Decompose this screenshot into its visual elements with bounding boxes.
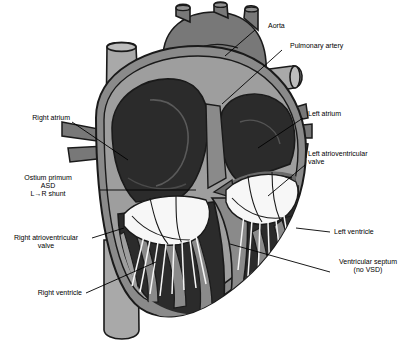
- label-ostium-primum-line3: L→R shunt: [2, 190, 94, 198]
- label-right-atrium: Right atrium: [0, 114, 70, 122]
- label-left-av-valve-line2: valve: [308, 158, 324, 166]
- label-left-atrium: Left atrium: [308, 110, 341, 118]
- label-pulmonary-artery: Pulmonary artery: [290, 42, 343, 50]
- label-right-ventricle: Right ventricle: [0, 289, 82, 297]
- heart-anatomy-figure: Aorta Pulmonary artery Right atrium Left…: [0, 0, 411, 355]
- label-right-av-valve-line2: valve: [0, 242, 92, 250]
- leader-left-ventricle: [296, 228, 330, 232]
- right-atrium-chamber: [112, 79, 208, 202]
- label-aorta: Aorta: [268, 22, 285, 30]
- label-left-ventricle: Left ventricle: [334, 228, 374, 236]
- label-ventricular-septum-line2: (no VSD): [325, 266, 411, 274]
